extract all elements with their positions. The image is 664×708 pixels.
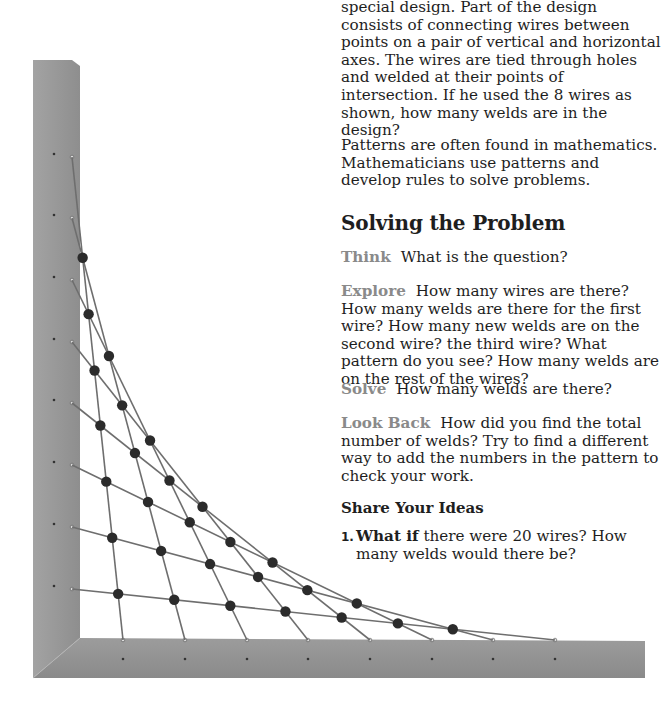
- weld-icon: [267, 557, 277, 567]
- weld-icon: [145, 435, 155, 445]
- weld-icon: [302, 585, 312, 595]
- weld-icon: [143, 497, 153, 507]
- weld-icon: [77, 253, 87, 263]
- weld-icon: [95, 420, 105, 430]
- step-think: ThinkWhat is the question?: [341, 249, 661, 267]
- step-text-think: What is the question?: [401, 248, 568, 266]
- weld-icon: [185, 517, 195, 527]
- wire: [72, 589, 555, 640]
- hole-icon: [246, 658, 249, 661]
- weld-icon: [197, 502, 207, 512]
- step-explore: ExploreHow many wires are there? How man…: [341, 283, 661, 389]
- hole-icon: [53, 523, 56, 526]
- section-heading-solving: Solving the Problem: [341, 215, 565, 233]
- question-number: 1.: [341, 529, 356, 547]
- vertical-board: [33, 60, 80, 678]
- horizontal-board: [33, 638, 645, 678]
- step-label-explore: Explore: [341, 282, 406, 300]
- step-label-think: Think: [341, 248, 391, 266]
- weld-icon: [101, 476, 111, 486]
- weld-icon: [336, 612, 346, 622]
- weld-icon: [83, 309, 93, 319]
- step-label-solve: Solve: [341, 380, 386, 398]
- step-solve: SolveHow many welds are there?: [341, 381, 661, 399]
- wire: [72, 280, 247, 640]
- weld-icon: [117, 400, 127, 410]
- weld-icon: [156, 546, 166, 556]
- weld-icon: [448, 624, 458, 634]
- share-question-1: 1.What if there were 20 wires? How many …: [341, 528, 661, 563]
- wire: [72, 218, 185, 640]
- weld-icon: [107, 533, 117, 543]
- hole-icon: [53, 153, 56, 156]
- question-lead: What if: [356, 527, 419, 545]
- hole-icon: [369, 658, 372, 661]
- hole-icon: [53, 585, 56, 588]
- weld-icon: [164, 475, 174, 485]
- weld-icon: [393, 618, 403, 628]
- weld-icon: [225, 537, 235, 547]
- hole-icon: [492, 658, 495, 661]
- weld-icon: [253, 572, 263, 582]
- step-label-look-back: Look Back: [341, 414, 430, 432]
- weld-icon: [113, 589, 123, 599]
- hole-icon: [53, 338, 56, 341]
- hole-icon: [431, 658, 434, 661]
- hole-icon: [53, 399, 56, 402]
- weld-icon: [225, 601, 235, 611]
- step-text-solve: How many welds are there?: [396, 380, 611, 398]
- hole-icon: [184, 658, 187, 661]
- hole-icon: [122, 658, 125, 661]
- hole-icon: [53, 276, 56, 279]
- weld-icon: [130, 448, 140, 458]
- problem-intro: special design. Part of the design consi…: [341, 0, 661, 140]
- weld-icon: [104, 351, 114, 361]
- weld-icon: [352, 598, 362, 608]
- patterns-paragraph: Patterns are often found in mathematics.…: [341, 137, 661, 190]
- weld-icon: [205, 559, 215, 569]
- weld-icon: [280, 606, 290, 616]
- hole-icon: [307, 658, 310, 661]
- hole-icon: [554, 658, 557, 661]
- hole-icon: [53, 214, 56, 217]
- hole-icon: [53, 461, 56, 464]
- section-heading-share: Share Your Ideas: [341, 500, 484, 518]
- step-look-back: Look BackHow did you find the total numb…: [341, 415, 661, 485]
- weld-icon: [169, 595, 179, 605]
- weld-icon: [89, 365, 99, 375]
